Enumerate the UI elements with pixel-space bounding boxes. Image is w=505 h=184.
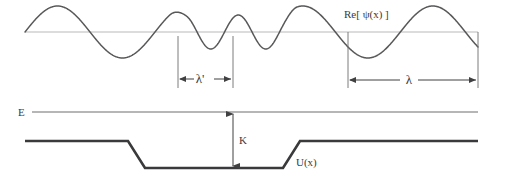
lambda-short-label: λ' [196, 71, 205, 86]
kinetic-label: K [239, 134, 247, 146]
potential-well-curve [25, 141, 478, 168]
figure-canvas: λ' λ Re[ ψ(x) ] E U(x) K [0, 0, 505, 184]
energy-label: E [18, 106, 25, 118]
wavefunction-label: Re[ ψ(x) ] [344, 8, 389, 21]
potential-label: U(x) [296, 156, 317, 169]
lambda-long-label: λ [406, 72, 413, 87]
physics-figure: λ' λ Re[ ψ(x) ] E U(x) K [0, 0, 505, 184]
